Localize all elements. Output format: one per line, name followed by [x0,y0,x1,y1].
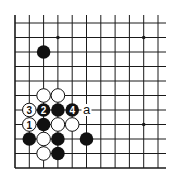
white-stone [65,118,79,132]
black-stone [51,103,65,117]
star-point-icon [142,123,146,127]
star-point-icon [56,36,60,40]
go-board: 3241 a [0,0,180,182]
white-stone [37,89,51,103]
black-stone [37,118,51,132]
move-number: 3 [27,105,33,116]
white-stone [37,132,51,146]
black-stone [80,132,94,146]
point-label-a: a [83,102,91,117]
black-stone [51,132,65,146]
black-stone [51,147,65,161]
black-stone [23,132,37,146]
move-number: 4 [69,105,75,116]
move-number: 2 [41,105,47,116]
white-stone [37,147,51,161]
markers: a [82,102,92,117]
star-point-icon [142,36,146,40]
white-stone [51,89,65,103]
white-stone: 1 [23,118,37,132]
black-stone: 2 [37,103,51,117]
white-stone [51,118,65,132]
white-stone: 3 [23,103,37,117]
move-number: 1 [27,120,33,131]
black-stone [37,45,51,59]
black-stone: 4 [65,103,79,117]
